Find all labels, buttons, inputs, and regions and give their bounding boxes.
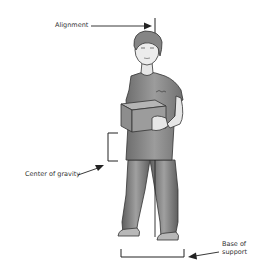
base-of-support-label-line2: support	[222, 249, 247, 257]
person-figure	[118, 31, 183, 240]
alignment-label: Alignment	[55, 22, 88, 30]
center-of-gravity-bracket	[108, 133, 118, 161]
base-of-support-bracket	[121, 249, 184, 257]
center-of-gravity-label: Center of gravity	[25, 171, 80, 179]
posture-diagram	[0, 0, 263, 275]
alignment-arrow-icon	[91, 23, 152, 30]
base-of-support-label: Base of support	[222, 241, 247, 257]
base-of-support-arrow-icon	[188, 252, 219, 260]
center-of-gravity-arrow-icon	[78, 165, 104, 175]
